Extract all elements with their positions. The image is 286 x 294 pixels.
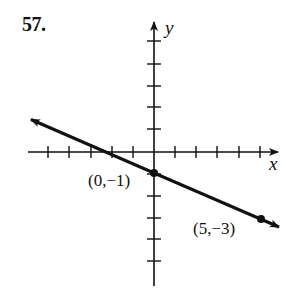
coordinate-graph: y x (0,−1) (5,−3) [0, 0, 286, 294]
x-axis [28, 146, 278, 158]
x-axis-label: x [268, 153, 278, 174]
point-marker-0-neg1 [150, 169, 158, 177]
point-label-5-neg3: (5,−3) [193, 219, 235, 238]
point-marker-5-neg3 [257, 215, 265, 223]
y-axis-label: y [163, 17, 174, 38]
y-axis [147, 22, 161, 286]
point-label-0-neg1: (0,−1) [88, 171, 130, 190]
